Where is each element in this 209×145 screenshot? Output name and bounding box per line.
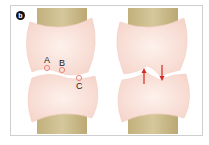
point-label-a: A	[44, 56, 50, 65]
point-label-c: C	[76, 82, 83, 91]
joint-illustration	[0, 0, 209, 145]
point-label-b: B	[59, 59, 65, 68]
upper-bone-head	[117, 18, 187, 76]
left-joint	[26, 8, 97, 134]
panel-label-badge: b	[16, 11, 25, 20]
right-joint	[117, 8, 190, 134]
